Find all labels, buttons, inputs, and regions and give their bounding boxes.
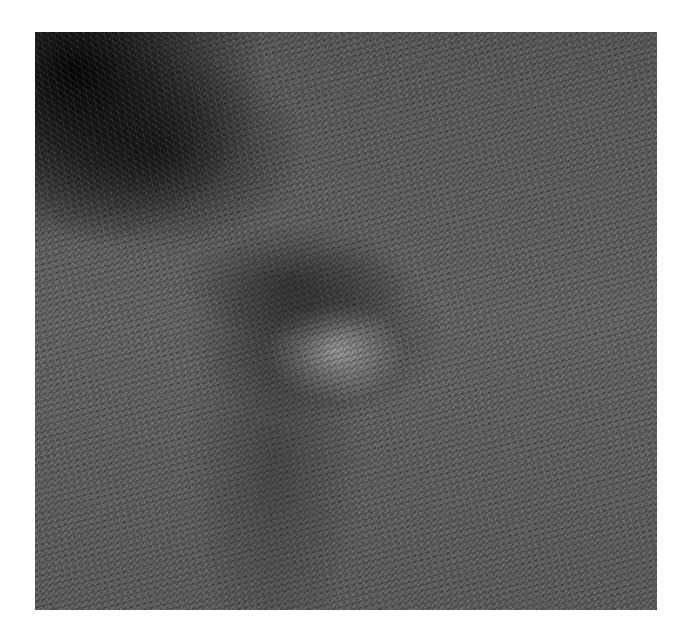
dark-grass-ring (35, 32, 657, 610)
lawn-photo (35, 32, 657, 610)
